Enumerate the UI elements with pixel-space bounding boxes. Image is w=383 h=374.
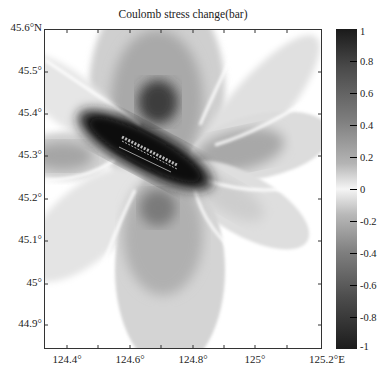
- y-tick-label: 45°: [27, 276, 42, 288]
- y-tick-label: 45.6°N: [10, 21, 42, 33]
- colorbar-label: 0.8: [360, 56, 373, 67]
- x-tick-label: 124.8°: [178, 353, 207, 365]
- x-tick-label: 124.4°: [52, 353, 81, 365]
- colorbar-tick: [350, 253, 357, 254]
- colorbar-label: 0.4: [360, 120, 373, 131]
- colorbar-tick: [350, 93, 357, 94]
- colorbar-label: -0.6: [360, 280, 377, 291]
- x-tick-label: 124.6°: [115, 353, 144, 365]
- axis-ticks: [0, 0, 383, 374]
- colorbar-label: 0.6: [360, 88, 373, 99]
- x-tick-label: 125.2°E: [309, 353, 345, 365]
- y-tick-label: 45.3°: [18, 148, 42, 160]
- y-tick-label: 45.4°: [18, 106, 42, 118]
- colorbar-label: 0: [360, 184, 365, 195]
- colorbar-tick: [350, 189, 357, 190]
- colorbar-label: -0.8: [360, 312, 377, 323]
- y-tick-label: 44.9°: [18, 317, 42, 329]
- x-tick-label: 125°: [245, 353, 266, 365]
- colorbar-label: -0.4: [360, 248, 377, 259]
- colorbar-label: 1: [360, 26, 365, 37]
- y-tick-label: 45.1°: [18, 233, 42, 245]
- colorbar-tick: [350, 125, 357, 126]
- colorbar-tick: [350, 157, 357, 158]
- colorbar-tick: [350, 285, 357, 286]
- colorbar-tick: [350, 221, 357, 222]
- y-tick-label: 45.2°: [18, 191, 42, 203]
- colorbar-tick: [350, 61, 357, 62]
- colorbar-tick: [350, 317, 357, 318]
- colorbar-label: -1: [360, 341, 369, 352]
- colorbar-label: 0.2: [360, 152, 373, 163]
- colorbar-label: -0.2: [360, 216, 377, 227]
- y-tick-label: 45.5°: [18, 64, 42, 76]
